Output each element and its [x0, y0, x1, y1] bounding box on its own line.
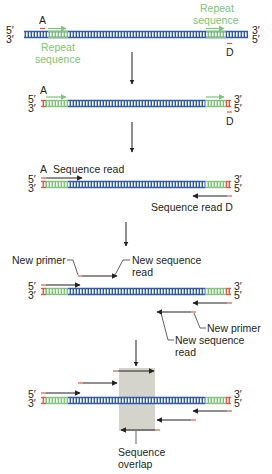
new-primer-left-leader [67, 260, 78, 275]
new-read-left-label-line1: New sequence [132, 254, 202, 266]
primer-a-label: A [40, 163, 47, 175]
panel-3: A Sequence read 5′ 3′ 3′ 5′ Sequence r [28, 163, 242, 213]
repeat-label-left-line2: sequence [35, 53, 81, 65]
five-prime-bottom-right: 5′ [234, 289, 242, 301]
panel-5: 5′ 3′ 3′ 5′ Sequence over [28, 368, 242, 470]
panel-2: A 5′ 3′ 3′ 5′ D [28, 84, 242, 127]
dna-duplex [41, 101, 231, 107]
primer-d-label: D [226, 115, 234, 127]
five-prime-bottom-right: 5′ [234, 102, 242, 114]
repeat-label-left-line1: Repeat [41, 41, 75, 53]
new-read-left-label-line2: read [132, 266, 153, 278]
dna-duplex [41, 398, 231, 404]
primer-d-label: D [226, 46, 234, 58]
three-prime-bottom-left: 3′ [28, 289, 36, 301]
three-prime-bottom-left: 3′ [28, 102, 36, 114]
sequence-read-a-label: Sequence read [53, 163, 124, 175]
new-read-right-label-line1: New sequence [175, 334, 245, 346]
five-prime-bottom-right: 5′ [234, 182, 242, 194]
panel-4: New primer New sequence read 5′ 3′ 3′ 5′ [12, 254, 261, 358]
dna-duplex [41, 289, 231, 295]
new-read-right-leader [161, 313, 174, 340]
new-primer-right-leader [194, 313, 206, 328]
repeat-label-right-line1: Repeat [200, 2, 234, 14]
three-prime-bottom-left: 3′ [6, 33, 14, 45]
dna-duplex [41, 182, 231, 188]
three-prime-bottom-left: 3′ [28, 182, 36, 194]
three-prime-bottom-left: 3′ [28, 397, 36, 409]
new-read-right-label-line2: read [175, 346, 196, 358]
sequence-read-d-label: Sequence read D [151, 201, 233, 213]
panel-1: Repeat sequence A 5′ 3′ 3′ 5′ Repeat seq… [6, 2, 260, 65]
five-prime-bottom-right: 5′ [252, 33, 260, 45]
five-prime-bottom-right: 5′ [234, 397, 242, 409]
primer-a-label: A [39, 14, 46, 26]
new-primer-left-label: New primer [12, 254, 66, 266]
primer-walking-diagram: Repeat sequence A 5′ 3′ 3′ 5′ Repeat seq… [0, 0, 272, 474]
repeat-label-right-line2: sequence [193, 14, 239, 26]
sequence-overlap-label-line2: overlap [118, 458, 153, 470]
new-read-left-leader [115, 260, 130, 275]
dna-duplex [24, 32, 248, 38]
sequence-overlap-label-line1: Sequence [118, 446, 165, 458]
primer-a-label: A [40, 84, 47, 96]
new-primer-right-label: New primer [207, 322, 261, 334]
